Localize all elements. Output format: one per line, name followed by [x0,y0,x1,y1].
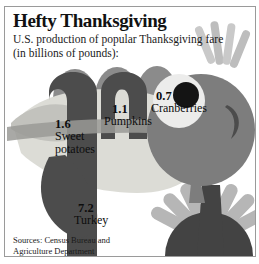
cranberries-label: Cranberries [151,102,207,115]
sweet-potatoes-label: Sweet potatoes [55,130,95,157]
sources-note: Sources: Census Bureau and Agriculture D… [13,235,110,257]
turkey-label: Turkey [74,214,108,227]
pumpkins-label: Pumpkins [104,115,152,128]
infographic-frame: Hefty Thanksgiving U.S. production of po… [4,6,256,257]
subtitle: U.S. production of popular Thanksgiving … [13,33,223,60]
page-title: Hefty Thanksgiving [13,11,166,31]
